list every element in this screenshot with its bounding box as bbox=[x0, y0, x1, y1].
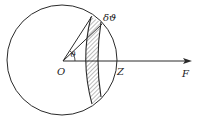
label-origin: O bbox=[57, 66, 65, 77]
label-zenith: Z bbox=[116, 66, 125, 77]
label-force: F bbox=[181, 68, 190, 79]
label-delta-angle: δϑ bbox=[103, 12, 116, 23]
sphere-slice-diagram: O Z F ϑ δϑ bbox=[0, 0, 198, 127]
outer-circle bbox=[7, 5, 117, 115]
label-angle: ϑ bbox=[70, 50, 76, 59]
diagram-canvas: O Z F ϑ δϑ bbox=[0, 0, 198, 127]
